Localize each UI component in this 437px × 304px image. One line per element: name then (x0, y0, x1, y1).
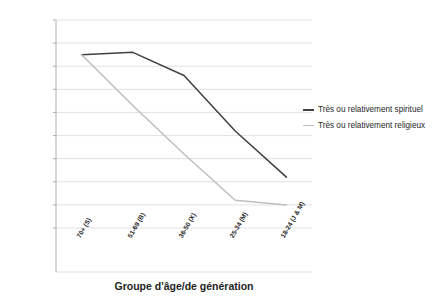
legend-item[interactable]: Très ou relativement religieux (303, 120, 435, 132)
x-tick-label: 51-69 (B) (127, 212, 147, 239)
x-tick-label: 36-50 (X) (178, 212, 197, 239)
legend-line-swatch (303, 109, 314, 111)
x-tick-label: 25-34 (M) (229, 211, 249, 239)
legend-line-swatch (303, 125, 314, 127)
legend-item[interactable]: Très ou relativement spirituel (303, 104, 435, 116)
line-chart: 35404550556065707580 70+ (S)51-69 (B)36-… (0, 0, 437, 304)
x-axis-title: Groupe d'âge/de génération (56, 281, 312, 292)
legend-label: Très ou relativement spirituel (318, 104, 430, 116)
x-tick-label: 18-24 (J & M) (280, 201, 306, 240)
x-tick-label: 70+ (S) (76, 217, 93, 239)
chart-legend: Très ou relativement spirituelTrès ou re… (303, 104, 435, 135)
legend-label: Très ou relativement religieux (318, 120, 430, 132)
x-axis-tick-labels: 70+ (S)51-69 (B)36-50 (X)25-34 (M)18-24 … (0, 0, 437, 304)
